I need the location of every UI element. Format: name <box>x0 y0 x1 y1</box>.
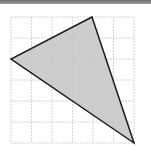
triangle-diagram <box>0 0 151 153</box>
